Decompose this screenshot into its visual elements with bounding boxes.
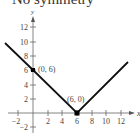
y-tick-label: −2	[19, 123, 28, 132]
point-label: (0, 6)	[38, 65, 56, 74]
y-axis-arrow-icon	[31, 16, 35, 22]
x-axis-label: x	[136, 109, 140, 118]
y-tick-label: 4	[24, 81, 28, 90]
x-tick-label: 2	[46, 117, 50, 126]
y-tick-label: 10	[20, 38, 28, 47]
point-marker	[75, 111, 80, 116]
chart-title: No symmetry	[12, 0, 94, 8]
point-marker	[31, 68, 35, 72]
y-tick-label: 12	[20, 23, 28, 32]
y-axis-label: y	[30, 8, 35, 16]
y-tick-label: 2	[24, 95, 28, 104]
x-tick-label: 8	[90, 117, 94, 126]
x-tick-label: 12	[117, 117, 125, 126]
x-tick-label: 10	[102, 117, 110, 126]
y-tick-labels: 12 10 8 6 4 2 −2	[19, 23, 28, 132]
point-label: (6, 0)	[67, 95, 85, 104]
y-tick-label: 6	[24, 66, 28, 75]
x-tick-label: 6	[75, 117, 79, 126]
chart-container: No symmetry x y −2 2 4 6 8 10 12	[0, 0, 140, 136]
x-tick-labels: −2 2 4 6 8 10 12	[12, 117, 125, 126]
x-axis-arrow-icon	[129, 111, 135, 115]
y-tick-label: 8	[24, 52, 28, 61]
plot-area: x y −2 2 4 6 8 10 12	[0, 0, 140, 136]
x-tick-label: 4	[60, 117, 64, 126]
